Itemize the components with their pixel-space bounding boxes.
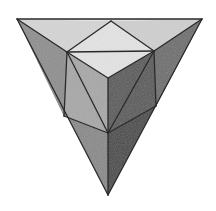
polyhedron-svg — [0, 0, 216, 211]
faces-group — [17, 19, 202, 195]
polyhedron-drawing — [0, 0, 216, 211]
